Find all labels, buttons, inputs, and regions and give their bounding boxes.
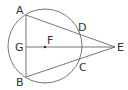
segment-ae [26, 15, 115, 47]
point-f-dot [44, 46, 47, 49]
label-e: E [117, 41, 124, 54]
label-b: B [16, 76, 24, 89]
geometry-diagram: A G B F D C E [0, 0, 128, 90]
label-g: G [15, 41, 24, 54]
label-f: F [47, 34, 53, 47]
label-a: A [16, 4, 24, 17]
label-c: C [79, 61, 87, 74]
label-d: D [78, 21, 86, 34]
